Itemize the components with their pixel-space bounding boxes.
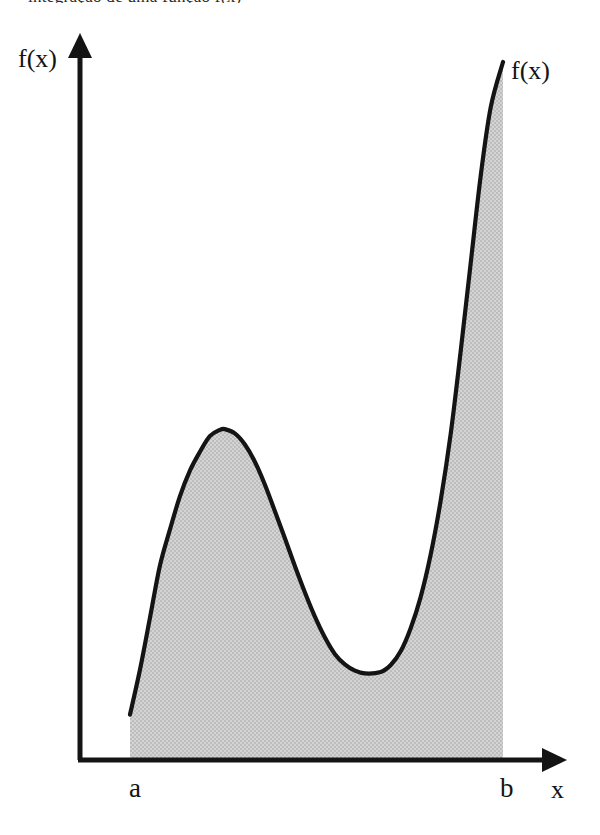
upper-limit-label-b: b [500,775,514,802]
curve-label: f(x) [511,58,550,84]
x-axis-arrowhead [542,748,567,772]
integral-area-diagram [0,0,600,835]
x-axis-label: x [551,777,564,803]
y-axis-arrowhead [68,33,92,58]
lower-limit-label-a: a [129,775,141,802]
shaded-integral-region [130,62,503,760]
y-axis-label: f(x) [18,46,57,72]
